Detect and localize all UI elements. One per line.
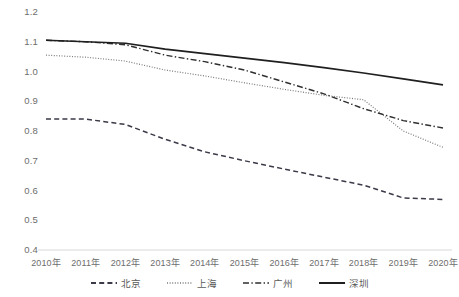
x-axis-tick-label: 2016年 [269, 256, 299, 269]
legend-label-上海: 上海 [197, 276, 217, 290]
line-chart: 1.21.11.00.90.80.70.60.50.4 2010年2011年20… [0, 0, 459, 297]
x-axis-tick-label: 2018年 [349, 256, 379, 269]
legend-swatch-上海 [167, 279, 193, 287]
x-axis-tick-label: 2014年 [190, 256, 220, 269]
legend-label-深圳: 深圳 [349, 276, 369, 290]
x-axis-tick-label: 2013年 [150, 256, 180, 269]
legend-item-北京[interactable]: 北京 [91, 276, 141, 290]
legend-item-深圳[interactable]: 深圳 [319, 276, 369, 290]
legend-label-广州: 广州 [273, 276, 293, 290]
x-axis-tick-label: 2015年 [230, 256, 260, 269]
x-axis-tick-label: 2019年 [389, 256, 419, 269]
x-axis-tick-label: 2011年 [71, 256, 100, 269]
legend-label-北京: 北京 [121, 276, 141, 290]
x-axis-tick-label: 2012年 [111, 256, 141, 269]
x-axis-tick-labels: 2010年2011年2012年2013年2014年2015年2016年2017年… [0, 0, 459, 297]
legend-item-上海[interactable]: 上海 [167, 276, 217, 290]
legend-swatch-北京 [91, 279, 117, 287]
x-axis-tick-label: 2010年 [31, 256, 61, 269]
x-axis-tick-label: 2020年 [428, 256, 458, 269]
x-axis-tick-label: 2017年 [309, 256, 339, 269]
legend-swatch-广州 [243, 279, 269, 287]
legend-swatch-深圳 [319, 279, 345, 287]
legend-item-广州[interactable]: 广州 [243, 276, 293, 290]
chart-legend: 北京上海广州深圳 [0, 273, 459, 293]
